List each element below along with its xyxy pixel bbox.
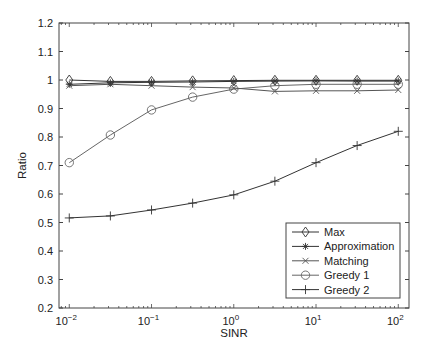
- y-tick-label: 0.6: [38, 188, 53, 200]
- chart: 0.20.30.40.50.60.70.80.911.11.210−210−11…: [0, 0, 428, 358]
- asterisk-marker-icon: [302, 243, 309, 250]
- y-tick-label: 0.9: [38, 103, 53, 115]
- y-tick-label: 0.5: [38, 217, 53, 229]
- y-tick-label: 0.2: [38, 302, 53, 314]
- x-tick-label: 10−1: [138, 313, 160, 327]
- y-tick-label: 1.1: [38, 46, 53, 58]
- legend-label: Max: [324, 226, 345, 238]
- y-axis-label: Ratio: [16, 152, 28, 179]
- x-tick-label: 100: [222, 313, 239, 327]
- line-chart: 0.20.30.40.50.60.70.80.911.11.210−210−11…: [0, 0, 428, 358]
- y-tick-label: 1: [47, 74, 53, 86]
- legend-label: Greedy 1: [324, 269, 369, 281]
- y-tick-label: 0.3: [38, 274, 53, 286]
- y-tick-label: 1.2: [38, 17, 53, 29]
- legend-label: Matching: [324, 255, 369, 267]
- y-tick-label: 0.7: [38, 160, 53, 172]
- x-tick-label: 102: [387, 313, 404, 327]
- legend-label: Greedy 2: [324, 284, 369, 296]
- x-tick-label: 101: [305, 313, 322, 327]
- y-tick-label: 0.8: [38, 131, 53, 143]
- x-tick-label: 10−2: [56, 313, 78, 327]
- legend-item: Greedy 1: [292, 269, 369, 281]
- x-axis-label: SINR: [220, 327, 247, 339]
- legend-label: Approximation: [324, 240, 394, 252]
- y-tick-label: 0.4: [38, 245, 53, 257]
- legend: MaxApproximationMatchingGreedy 1Greedy 2: [286, 223, 400, 298]
